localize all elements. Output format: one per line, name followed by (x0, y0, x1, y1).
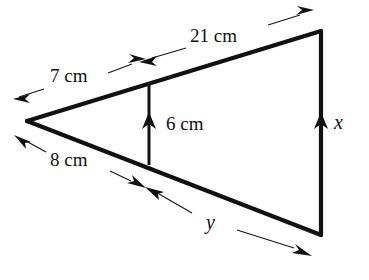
diagram-canvas: Similar triangles with parallel segments (0, 0, 369, 280)
dimension-8cm-arrow-left-icon (14, 135, 31, 149)
dimension-21cm-arrow-right-icon (296, 6, 314, 15)
dimension-y-leader-left (159, 194, 192, 213)
label-21cm: 21 cm (190, 25, 237, 46)
dimension-8cm-arrow-right-icon (127, 175, 146, 188)
triangle-bottom-edge (27, 121, 321, 235)
dimension-21cm-leader-right (268, 15, 300, 25)
dimension-21cm-leader-left (152, 48, 186, 58)
label-y: y (204, 211, 215, 234)
label-6cm: 6 cm (166, 113, 204, 134)
dimension-7cm-leader-right (108, 64, 132, 73)
dimension-8cm-leader-left (26, 141, 46, 152)
dimension-7cm-arrow-left-icon (13, 94, 30, 103)
label-7cm: 7 cm (50, 65, 88, 86)
dimension-y-arrow-right-icon (292, 244, 312, 256)
label-x: x (333, 111, 343, 133)
dimension-y-arrow-left-icon (145, 187, 164, 200)
inner-parallel-segment (142, 85, 156, 165)
dimension-8cm-leader-right (110, 171, 131, 181)
dimension-7cm-leader-left (19, 89, 44, 97)
dimension-y-leader-right (237, 230, 294, 248)
geometry-diagram: Similar triangles with parallel segments (0, 0, 369, 280)
dimension-21cm-arrow-left-icon (139, 56, 157, 66)
label-8cm: 8 cm (50, 149, 88, 170)
